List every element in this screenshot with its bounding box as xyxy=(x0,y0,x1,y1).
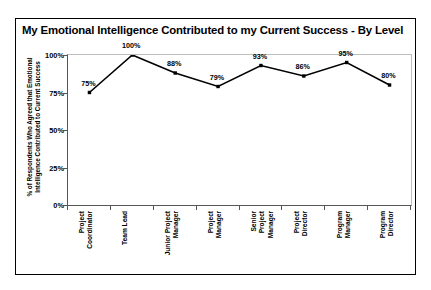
x-axis-tick-mark xyxy=(367,206,368,210)
x-axis-tick-mark xyxy=(67,206,68,210)
y-axis-tick-labels: 0%25%50%75%100% xyxy=(26,54,64,206)
x-axis-tick-mark xyxy=(196,206,197,210)
data-point-labels: 75%100%88%79%93%86%95%80% xyxy=(67,54,412,206)
data-point-label: 95% xyxy=(338,49,352,58)
y-axis-tick-label: 25% xyxy=(30,163,64,172)
data-point-label: 88% xyxy=(167,59,181,68)
x-axis-tick-mark xyxy=(324,206,325,210)
chart-container: My Emotional Intelligence Contributed to… xyxy=(15,18,416,275)
x-axis-tick-mark xyxy=(239,206,240,210)
x-axis-tick-mark xyxy=(281,206,282,210)
data-point-label: 79% xyxy=(210,73,224,82)
y-axis-tick-label: 75% xyxy=(30,88,64,97)
x-axis-category-label: ProjectManager xyxy=(207,211,226,273)
y-axis-tick-label: 0% xyxy=(30,201,64,210)
data-point-label: 93% xyxy=(253,52,267,61)
data-point-label: 75% xyxy=(81,79,95,88)
y-axis-tick-mark xyxy=(63,93,67,94)
x-axis-tick-mark xyxy=(110,206,111,210)
x-axis-category-label: Junior ProjectManager xyxy=(164,211,183,273)
x-axis-category-label: ProgramManager xyxy=(336,211,355,273)
x-axis-tick-labels: ProjectCoordinatorTeam LeadJunior Projec… xyxy=(67,211,412,273)
x-axis-category-label: ProgramDirector xyxy=(379,211,398,273)
y-axis-tick-label: 50% xyxy=(30,126,64,135)
x-axis-tick-mark xyxy=(153,206,154,210)
y-axis-tick-mark xyxy=(63,55,67,56)
y-axis-tick-mark xyxy=(63,168,67,169)
y-axis-tick-mark xyxy=(63,130,67,131)
x-axis-category-label: ProjectDirector xyxy=(293,211,312,273)
data-point-label: 80% xyxy=(381,71,395,80)
chart-title: My Emotional Intelligence Contributed to… xyxy=(22,24,412,36)
x-axis-tick-mark xyxy=(410,206,411,210)
data-point-label: 86% xyxy=(296,62,310,71)
data-point-label: 100% xyxy=(122,41,140,50)
x-axis-category-label: SeniorProjectManager xyxy=(250,211,277,273)
x-axis-category-label: ProjectCoordinator xyxy=(78,211,97,273)
x-axis-category-label: Team Lead xyxy=(121,211,131,273)
y-axis-tick-label: 100% xyxy=(30,51,64,60)
